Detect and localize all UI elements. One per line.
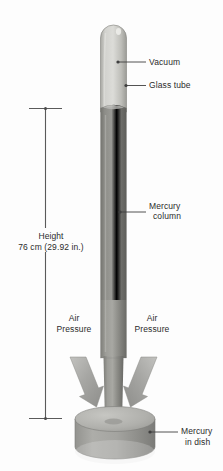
glass-tube-vacuum-section	[101, 25, 127, 112]
label-height-title: Height	[12, 231, 90, 242]
label-air-pressure-left-line2: Pressure	[50, 324, 98, 335]
glass-highlight	[116, 28, 121, 35]
label-air-pressure-right-line1: Air	[128, 313, 176, 324]
label-glass-tube: Glass tube	[149, 80, 191, 91]
anchor-dot-glass-tube	[124, 84, 127, 87]
anchor-dot-mercury-column	[118, 210, 121, 213]
anchor-dot-vacuum	[116, 60, 119, 63]
label-vacuum: Vacuum	[149, 57, 180, 68]
label-air-pressure-left-line1: Air	[50, 313, 98, 324]
barometer-diagram: Vacuum Glass tube Mercury column Air Pre…	[0, 0, 223, 471]
label-mercury-column-line1: Mercury	[149, 201, 180, 212]
mercury-dish	[75, 407, 155, 465]
air-pressure-arrow-right	[124, 357, 158, 407]
height-measure	[29, 107, 62, 420]
label-mercury-in-dish-line2: in dish	[185, 437, 210, 448]
label-mercury-column-line2: column	[153, 211, 181, 222]
label-mercury-in-dish-line1: Mercury	[181, 426, 212, 437]
label-air-pressure-right-line2: Pressure	[128, 324, 176, 335]
air-pressure-arrow-left	[70, 357, 104, 407]
label-height-value: 76 cm (29.92 in.)	[6, 242, 96, 253]
anchor-dot-mercury-in-dish	[148, 430, 151, 433]
mercury-column-body	[101, 105, 127, 424]
